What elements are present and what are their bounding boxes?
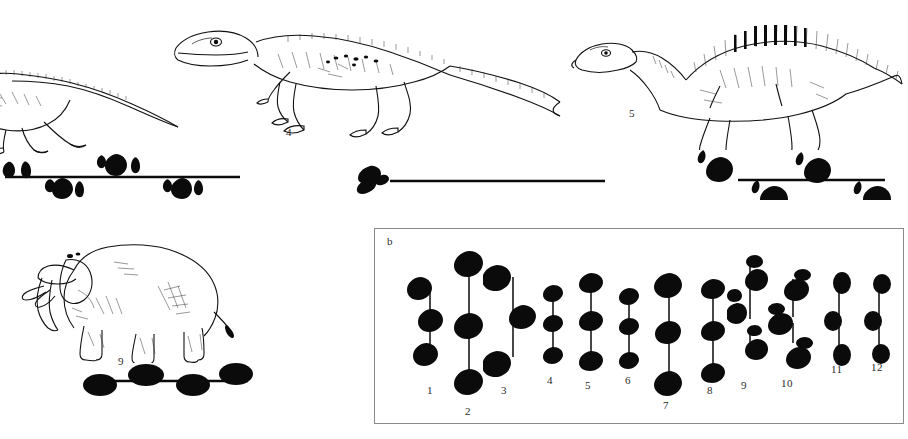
trackway-7 xyxy=(647,257,695,407)
trackway-8-label: 8 xyxy=(707,384,713,396)
hadrosaur-silhouette xyxy=(570,10,908,150)
panel-b: b 1 xyxy=(374,228,904,424)
trackway-11 xyxy=(819,269,859,374)
elephant-silhouette xyxy=(18,238,248,363)
hadrosaur-label: 5 xyxy=(629,107,635,119)
trackway-5-label: 5 xyxy=(585,379,591,391)
trackway-12-label: 12 xyxy=(871,361,883,373)
trackway-11-label: 11 xyxy=(831,363,842,375)
trackway-9-label: 9 xyxy=(741,379,747,391)
trackway-4-label: 4 xyxy=(547,374,553,386)
trackway-1-label: 1 xyxy=(427,384,433,396)
trackway-elephant xyxy=(78,358,258,400)
trackway-10-label: 10 xyxy=(781,377,793,389)
figure-canvas: 4 xyxy=(0,0,908,439)
trackway-5 xyxy=(571,259,615,389)
trackway-hadrosaur xyxy=(690,145,908,200)
trackway-6 xyxy=(611,274,651,389)
trackway-2-label: 2 xyxy=(465,405,471,417)
trackway-theropod-left xyxy=(0,150,250,200)
theropod-middle-silhouette xyxy=(168,20,568,145)
trackway-3 xyxy=(483,247,543,392)
trackway-10 xyxy=(767,261,819,376)
trackway-7-label: 7 xyxy=(663,399,669,411)
panel-b-label: b xyxy=(387,235,393,247)
theropod-middle-label: 4 xyxy=(286,126,292,138)
trackway-6-label: 6 xyxy=(625,374,631,386)
trackway-theropod-middle xyxy=(330,158,630,198)
trackway-4 xyxy=(535,271,575,386)
trackway-3-label: 3 xyxy=(501,384,507,396)
